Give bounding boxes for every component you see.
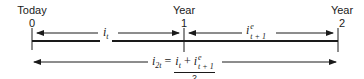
label-year2: Year xyxy=(322,4,362,16)
label-year1: Year xyxy=(164,4,204,16)
formula-fraction: it + iet + 1 2 xyxy=(174,55,214,79)
label-year-1-number: 1 xyxy=(164,17,204,29)
label-today: Today xyxy=(12,4,52,16)
formula-i-2t: i2t = it + iet + 1 2 xyxy=(149,55,218,79)
segment-label-i-e-t1: iet + 1 xyxy=(243,24,269,38)
label-year-0: 0 xyxy=(12,17,52,29)
segment-label-i-t: it xyxy=(100,26,112,43)
label-year-2-number: 2 xyxy=(322,17,362,29)
